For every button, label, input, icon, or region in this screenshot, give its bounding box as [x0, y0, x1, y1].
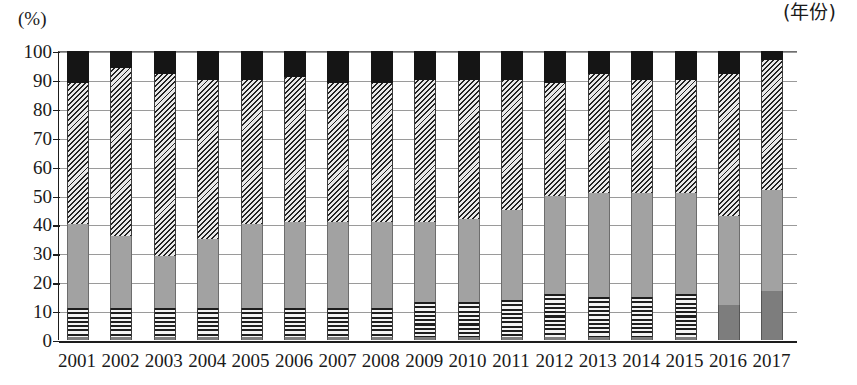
bar-segment-mid-gray — [588, 193, 610, 297]
bar-segment-bottom-dark-gray — [284, 337, 306, 340]
bar — [67, 51, 89, 340]
bar-segment-horizontal-stripe — [327, 308, 349, 337]
bar-segment-bottom-dark-gray — [501, 337, 523, 340]
bar — [458, 51, 480, 340]
x-axis-tick-labels: 2001200220032004200520062007200820092010… — [0, 348, 857, 380]
bar — [197, 51, 219, 340]
stacked-bar-chart: (%) 0102030405060708090100 2001200220032… — [0, 0, 857, 385]
bar-segment-mid-gray — [154, 256, 176, 308]
bar-segment-bottom-dark-gray — [458, 337, 480, 340]
y-axis-tick-label: 0 — [8, 331, 52, 350]
bar — [631, 51, 653, 340]
bar-segment-horizontal-stripe — [631, 297, 653, 337]
bar-segment-bottom-dark-gray — [67, 337, 89, 340]
bar-segment-mid-gray — [675, 193, 697, 294]
x-axis-tick-label: 2014 — [622, 348, 660, 374]
bar-segment-bottom-dark-gray — [197, 337, 219, 340]
bar-segment-black-top — [501, 51, 523, 80]
bar — [718, 51, 740, 340]
bar-segment-diagonal-hatch — [67, 83, 89, 225]
bar-segment-mid-gray — [501, 210, 523, 300]
bar-segment-black-top — [371, 51, 393, 83]
x-axis-tick-label: 2002 — [101, 348, 139, 374]
x-axis-tick-label: 2003 — [145, 348, 183, 374]
bar-segment-black-top — [284, 51, 306, 77]
bar-segment-diagonal-hatch — [458, 80, 480, 219]
bar-segment-black-top — [761, 51, 783, 60]
bar-segment-bottom-dark-gray — [371, 337, 393, 340]
bar-segment-black-top — [718, 51, 740, 74]
bar-segment-bottom-dark-gray — [327, 337, 349, 340]
bar-segment-diagonal-hatch — [761, 60, 783, 190]
x-axis-tick-label: 2010 — [449, 348, 487, 374]
bar-segment-mid-gray — [631, 193, 653, 297]
bar-segment-bottom-dark-gray — [544, 337, 566, 340]
bar-segment-horizontal-stripe — [197, 308, 219, 337]
x-axis-tick-label: 2011 — [492, 348, 529, 374]
bar-segment-diagonal-hatch — [241, 80, 263, 225]
bar-segment-diagonal-hatch — [544, 83, 566, 196]
y-axis-tick-label: 40 — [8, 215, 52, 234]
bar-segment-black-top — [154, 51, 176, 74]
bar-segment-bottom-dark-gray — [110, 337, 132, 340]
bar — [241, 51, 263, 340]
bar-segment-diagonal-hatch — [154, 74, 176, 256]
y-axis-tick-label: 10 — [8, 302, 52, 321]
bar-segment-black-top — [675, 51, 697, 80]
bar-segment-mid-gray — [458, 219, 480, 303]
x-axis-tick-label: 2007 — [318, 348, 356, 374]
bar-segment-mid-gray — [284, 222, 306, 309]
bar-segment-diagonal-hatch — [631, 80, 653, 193]
bar-segment-black-top — [241, 51, 263, 80]
bar-segment-mid-gray — [414, 222, 436, 303]
bar-segment-black-top — [588, 51, 610, 74]
x-axis-tick-label: 2012 — [535, 348, 573, 374]
bar-segment-horizontal-stripe — [241, 308, 263, 337]
bar — [110, 51, 132, 340]
y-axis-tick-label: 80 — [8, 99, 52, 118]
bar-segment-horizontal-stripe — [67, 308, 89, 337]
bar-segment-bottom-dark-gray — [154, 337, 176, 340]
bar-segment-diagonal-hatch — [327, 83, 349, 222]
y-axis-tick-label: 70 — [8, 128, 52, 147]
bar — [154, 51, 176, 340]
bar-segment-mid-gray — [67, 224, 89, 308]
bar — [327, 51, 349, 340]
x-axis-tick-label: 2016 — [709, 348, 747, 374]
bar — [544, 51, 566, 340]
bar-segment-horizontal-stripe — [501, 300, 523, 338]
bar-group — [59, 52, 797, 340]
bar-segment-mid-gray — [544, 196, 566, 294]
bar-segment-bottom-dark-gray — [588, 337, 610, 340]
bar-segment-black-top — [197, 51, 219, 80]
bar-segment-black-top — [67, 51, 89, 83]
bar-segment-horizontal-stripe — [110, 308, 132, 337]
bar-segment-black-top — [458, 51, 480, 80]
bar-segment-black-top — [327, 51, 349, 83]
bar-segment-mid-gray — [327, 222, 349, 309]
bar-segment-mid-gray — [241, 224, 263, 308]
x-axis-tick-label: 2001 — [58, 348, 96, 374]
x-axis-tick-label: 2015 — [666, 348, 704, 374]
y-axis-tick-labels: 0102030405060708090100 — [8, 0, 52, 385]
gridline — [59, 341, 797, 343]
bar-segment-black-top — [414, 51, 436, 80]
bar-segment-horizontal-stripe — [588, 297, 610, 337]
bar-segment-diagonal-hatch — [501, 80, 523, 210]
bar-segment-horizontal-stripe — [675, 294, 697, 337]
bar-segment-diagonal-hatch — [675, 80, 697, 193]
bar — [284, 51, 306, 340]
bar-segment-horizontal-stripe — [371, 308, 393, 337]
bar — [414, 51, 436, 340]
y-axis-tick-label: 60 — [8, 157, 52, 176]
x-axis-tick-label: 2009 — [405, 348, 443, 374]
bar-segment-black-top — [110, 51, 132, 68]
bar-segment-bottom-dark-gray — [241, 337, 263, 340]
bar-segment-horizontal-stripe — [458, 302, 480, 337]
y-axis-tick-label: 20 — [8, 273, 52, 292]
bar-segment-horizontal-stripe — [544, 294, 566, 337]
y-axis-tick-label: 90 — [8, 70, 52, 89]
bar-segment-black-top — [544, 51, 566, 83]
bar-segment-mid-gray — [371, 222, 393, 309]
x-axis-tick-label: 2004 — [188, 348, 226, 374]
